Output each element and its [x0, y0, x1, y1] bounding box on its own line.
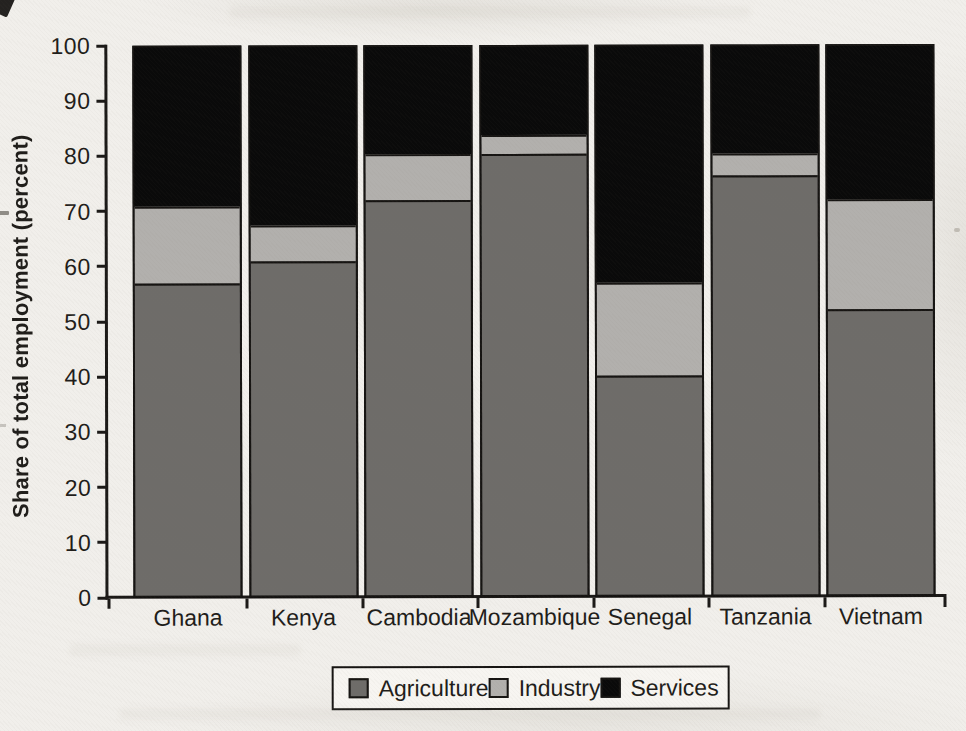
segment-agriculture-senegal — [597, 375, 702, 594]
y-tick-label-50: 50 — [31, 311, 91, 334]
y-tick-label-90: 90 — [30, 90, 90, 113]
segment-industry-tanzania — [712, 153, 817, 175]
segment-services-kenya — [250, 47, 355, 225]
x-tick-0 — [107, 599, 110, 609]
segment-services-cambodia — [365, 47, 470, 154]
segment-services-tanzania — [712, 46, 817, 153]
y-tick-90 — [96, 99, 106, 102]
legend-swatch-agriculture-icon — [349, 678, 369, 698]
bar-cambodia — [363, 45, 473, 597]
y-tick-30 — [97, 431, 107, 434]
segment-agriculture-tanzania — [712, 175, 818, 594]
segment-agriculture-mozambique — [481, 154, 587, 595]
bar-mozambique — [479, 45, 589, 597]
y-tick-20 — [97, 486, 107, 489]
legend-item-services: Services — [600, 674, 718, 701]
segment-industry-cambodia — [366, 154, 471, 201]
y-tick-label-40: 40 — [31, 366, 91, 389]
segment-services-senegal — [596, 47, 701, 283]
y-tick-100 — [96, 44, 106, 47]
legend-label-services: Services — [630, 674, 718, 701]
legend-swatch-industry-icon — [489, 678, 509, 698]
bar-vietnam — [825, 44, 935, 596]
y-tick-0 — [97, 596, 107, 599]
segment-industry-mozambique — [481, 134, 586, 153]
legend-label-agriculture: Agriculture — [379, 674, 489, 701]
legend-swatch-services-icon — [600, 678, 620, 698]
y-tick-label-0: 0 — [31, 587, 91, 610]
segment-agriculture-kenya — [250, 261, 356, 595]
legend-item-industry: Industry — [489, 674, 601, 701]
segment-services-mozambique — [481, 47, 586, 135]
segment-agriculture-vietnam — [828, 309, 934, 594]
segment-industry-senegal — [597, 282, 702, 375]
scanned-figure-page: Share of total employment (percent) 0102… — [0, 0, 966, 731]
segment-services-vietnam — [827, 46, 932, 200]
segment-industry-vietnam — [828, 199, 933, 309]
stacked-bar-chart: Share of total employment (percent) 0102… — [0, 0, 966, 731]
bar-ghana — [132, 46, 242, 598]
y-ticks-container: 0102030405060708090100 — [0, 0, 965, 1]
y-tick-60 — [97, 265, 107, 268]
bar-tanzania — [710, 44, 820, 596]
y-tick-40 — [97, 375, 107, 378]
legend-label-industry: Industry — [519, 674, 601, 701]
y-tick-label-60: 60 — [31, 256, 91, 279]
y-tick-label-100: 100 — [30, 35, 90, 58]
category-labels-container: GhanaKenyaCambodiaMozambiqueSenegalTanza… — [0, 0, 965, 1]
y-tick-label-30: 30 — [31, 421, 91, 444]
segment-agriculture-cambodia — [366, 200, 472, 595]
bar-kenya — [248, 45, 358, 597]
y-tick-50 — [97, 320, 107, 323]
category-label-vietnam: Vietnam — [811, 603, 951, 630]
segment-industry-ghana — [135, 206, 240, 283]
y-tick-10 — [97, 541, 107, 544]
bars-container — [0, 0, 965, 1]
y-tick-70 — [97, 210, 107, 213]
x-ticks-container — [0, 0, 965, 1]
legend: AgricultureIndustryServices — [332, 665, 730, 710]
y-tick-80 — [97, 155, 107, 158]
y-tick-label-80: 80 — [31, 145, 91, 168]
legend-item-agriculture: Agriculture — [349, 674, 489, 701]
segment-agriculture-ghana — [135, 283, 241, 596]
y-tick-label-10: 10 — [31, 532, 91, 555]
y-tick-label-20: 20 — [31, 476, 91, 499]
segment-industry-kenya — [250, 225, 355, 261]
y-tick-label-70: 70 — [31, 200, 91, 223]
segment-services-ghana — [134, 48, 239, 207]
bar-senegal — [594, 45, 704, 597]
